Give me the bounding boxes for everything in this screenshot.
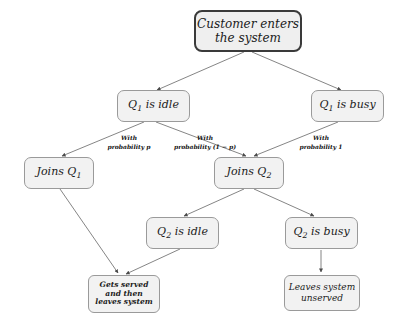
edge-label-probability-1-minus-p: With probability (1 − p) (163, 134, 247, 151)
node-customer-enters-line2: the system (215, 31, 281, 45)
node-q1-is-idle-prefix: Q (128, 98, 137, 111)
edge-joins-q1-to-served (60, 189, 118, 273)
node-joins-q2[interactable]: Joins Q2 (214, 157, 284, 189)
node-q2-is-idle-suffix: is idle (171, 225, 208, 238)
edge-label-1mp-line1: With (197, 134, 213, 141)
node-gets-served-line3: leaves system (95, 297, 152, 306)
edge-label-probability-1: With probability 1 (288, 134, 354, 151)
node-customer-enters[interactable]: Customer enters the system (194, 10, 302, 52)
node-unserved-line1: Leaves system (289, 282, 355, 292)
edge-root-to-q1-busy (252, 52, 341, 90)
node-leaves-system-unserved[interactable]: Leaves system unserved (284, 275, 360, 311)
edge-joins-q2-to-q2-idle (184, 189, 244, 216)
edge-q2-idle-to-served (126, 249, 180, 274)
edge-label-p-line1: With (121, 134, 137, 141)
flowchart-canvas: Customer enters the system Q1 is idle Q1… (0, 0, 400, 327)
node-joins-q2-subscript: 2 (266, 171, 271, 180)
edge-label-1-line1: With (313, 134, 329, 141)
node-gets-served-line1: Gets served (100, 280, 149, 289)
node-gets-served-and-leaves[interactable]: Gets served and then leaves system (88, 275, 160, 313)
node-gets-served-line2: and then (105, 289, 142, 298)
node-q1-is-busy-suffix: is busy (333, 98, 375, 111)
node-unserved-line2: unserved (301, 293, 343, 303)
node-joins-q2-prefix: Joins Q (227, 165, 267, 178)
node-q2-is-idle-prefix: Q (157, 225, 166, 238)
node-joins-q1-prefix: Joins Q (37, 165, 77, 178)
edge-root-to-q1-idle (157, 52, 244, 90)
edge-label-probability-p: With probability p (98, 134, 160, 151)
edge-joins-q2-to-q2-busy (254, 189, 314, 216)
node-q1-is-busy[interactable]: Q1 is busy (311, 90, 384, 122)
edge-label-1-line2: probability 1 (300, 143, 343, 150)
edge-label-p-line2: probability p (107, 143, 150, 150)
node-joins-q1[interactable]: Joins Q1 (24, 157, 94, 189)
node-q2-is-idle[interactable]: Q2 is idle (146, 217, 219, 249)
node-customer-enters-line1: Customer enters (197, 17, 299, 31)
node-joins-q1-subscript: 1 (76, 171, 81, 180)
node-q1-is-idle[interactable]: Q1 is idle (117, 90, 190, 122)
node-q1-is-idle-suffix: is idle (142, 98, 179, 111)
node-q2-is-busy-suffix: is busy (307, 225, 349, 238)
node-q2-is-busy[interactable]: Q2 is busy (285, 217, 358, 249)
edge-label-1mp-line2: probability (1 − p) (174, 143, 236, 150)
